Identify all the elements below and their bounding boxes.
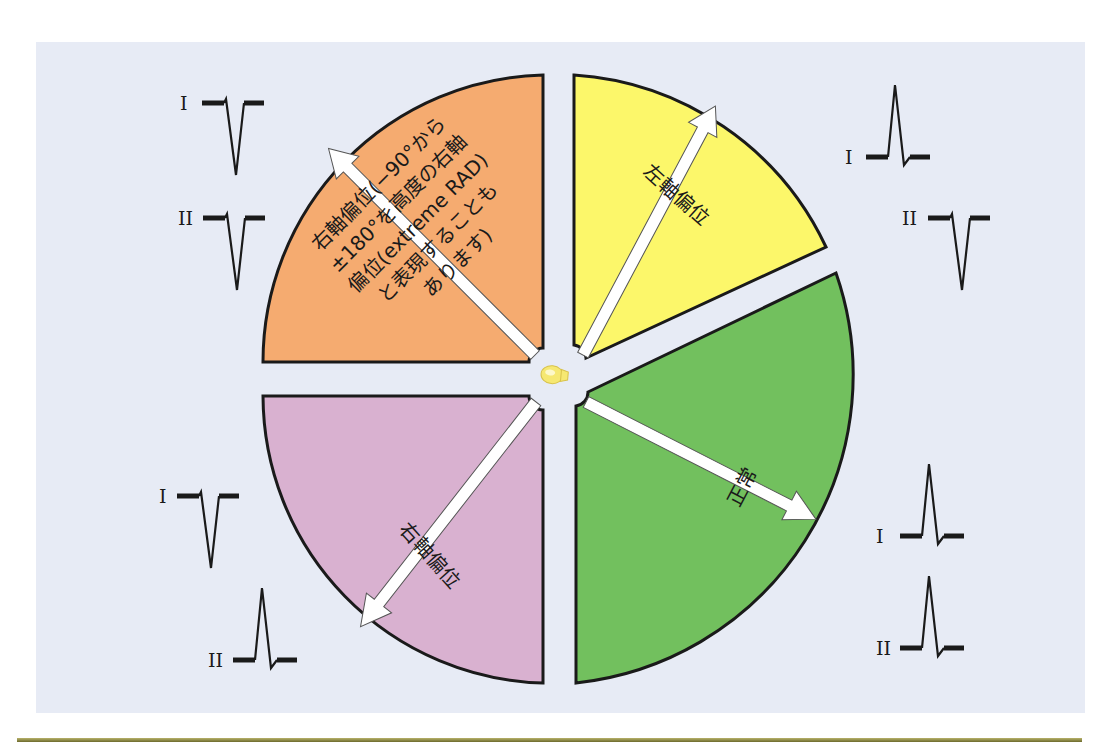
qrs-positive-waveform (922, 464, 944, 544)
qrs-positive-waveform (922, 576, 944, 656)
lead-label: I (159, 485, 167, 507)
qrs-negative-waveform (225, 214, 245, 290)
lead-label: I (180, 92, 188, 114)
lead-label: II (876, 637, 891, 659)
ecg-right-axis-deviation-lead-I: I (159, 485, 239, 568)
ecg-left-axis-deviation-lead-II: II (902, 207, 990, 290)
ecg-right-axis-deviation-lead-II: II (208, 588, 297, 671)
qrs-positive-waveform (255, 588, 277, 668)
qrs-negative-waveform (950, 214, 970, 290)
ecg-left-axis-deviation-lead-I: I (845, 85, 930, 168)
axis-deviation-diagram: 右軸偏位(−90°から ±180°を高度の右軸 偏位(extreme RAD) … (0, 0, 1116, 747)
lead-label: II (178, 207, 193, 229)
lead-label: II (902, 207, 917, 229)
lead-label: I (876, 525, 884, 547)
lead-label: II (208, 649, 223, 671)
lead-label: I (845, 146, 853, 168)
heart-icon (540, 365, 568, 385)
qrs-negative-waveform (224, 99, 244, 175)
ecg-extreme-rad-lead-II: II (178, 207, 265, 290)
bottom-rule (17, 738, 1082, 742)
qrs-negative-waveform (199, 492, 219, 568)
ecg-normal-lead-II: II (876, 576, 964, 659)
ecg-normal-lead-I: I (876, 464, 964, 547)
qrs-positive-waveform (888, 85, 910, 165)
ecg-extreme-rad-lead-I: I (180, 92, 264, 175)
